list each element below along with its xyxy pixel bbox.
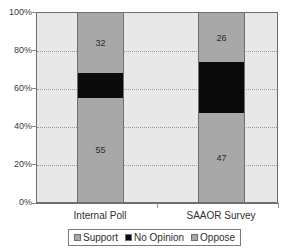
- legend-swatch-support-icon: [74, 234, 81, 241]
- y-tick-label-100: 100%: [0, 7, 32, 17]
- bar-segment-label-support: 47: [216, 153, 226, 163]
- y-tick-label-80: 80%: [0, 45, 32, 55]
- y-tick-label-60: 60%: [0, 83, 32, 93]
- y-tick-label-20: 20%: [0, 159, 32, 169]
- bar-segment-label-no-opinion: 13: [95, 81, 105, 91]
- bar-saaor-survey[interactable]: 26 27 47: [198, 13, 245, 202]
- legend-label-support: Support: [83, 232, 118, 243]
- x-tick-mark-2: [278, 203, 279, 208]
- y-tick-label-40: 40%: [0, 121, 32, 131]
- bar-segment-oppose[interactable]: 32: [77, 13, 124, 73]
- y-tick-label-0: 0%: [0, 197, 32, 207]
- legend: Support No Opinion Oppose: [68, 229, 241, 246]
- bar-segment-no-opinion[interactable]: 13: [77, 73, 124, 98]
- x-tick-label-internal-poll: Internal Poll: [45, 210, 155, 222]
- legend-swatch-no-opinion-icon: [125, 234, 132, 241]
- legend-swatch-oppose-icon: [191, 234, 198, 241]
- bar-segment-label-oppose: 32: [95, 38, 105, 48]
- bar-segment-support[interactable]: 47: [198, 113, 245, 202]
- legend-label-oppose: Oppose: [200, 232, 235, 243]
- legend-item-no-opinion[interactable]: No Opinion: [125, 232, 184, 243]
- bar-internal-poll[interactable]: 32 13 55: [77, 13, 124, 202]
- bar-segment-support[interactable]: 55: [77, 98, 124, 202]
- x-tick-label-saaor-survey: SAAOR Survey: [166, 210, 276, 222]
- bar-segment-label-oppose: 26: [216, 33, 226, 43]
- y-axis: 100% 80% 60% 40% 20% 0%: [0, 0, 32, 251]
- bar-segment-no-opinion[interactable]: 27: [198, 62, 245, 113]
- bar-segment-label-no-opinion: 27: [216, 83, 226, 93]
- bar-segment-label-support: 55: [95, 145, 105, 155]
- legend-label-no-opinion: No Opinion: [134, 232, 184, 243]
- x-tick-mark-1: [157, 203, 158, 208]
- plot-area: 32 13 55 26 27 47: [36, 12, 278, 203]
- legend-item-oppose[interactable]: Oppose: [191, 232, 235, 243]
- stacked-bar-chart: 100% 80% 60% 40% 20% 0% 32 13 55: [0, 0, 289, 251]
- bar-segment-oppose[interactable]: 26: [198, 13, 245, 62]
- legend-item-support[interactable]: Support: [74, 232, 118, 243]
